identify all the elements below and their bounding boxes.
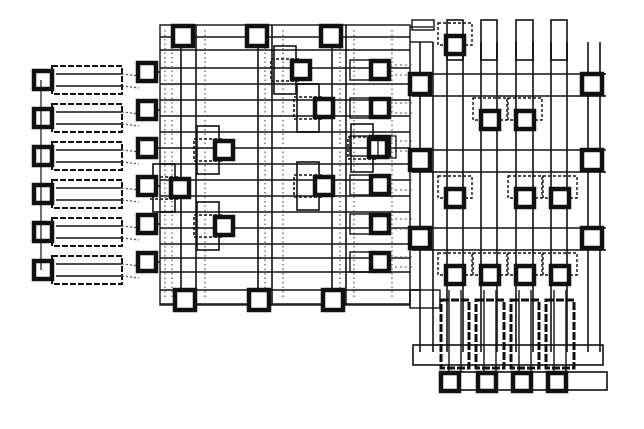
or-column-top (551, 20, 567, 60)
input-transistor (52, 180, 122, 208)
input-transistor (52, 66, 122, 94)
contact-pad (513, 373, 531, 391)
or-column-top (516, 20, 533, 60)
contact-pad (292, 61, 310, 79)
contact-pad (247, 26, 267, 46)
input-transistor (52, 104, 122, 132)
contact-pad (215, 141, 233, 159)
contact-pad (34, 147, 52, 165)
contact-pad (138, 139, 156, 157)
contact-pad (410, 74, 430, 94)
contact-pad (582, 150, 602, 170)
contact-pad (478, 373, 496, 391)
ic-layout-diagram (0, 0, 644, 429)
contact-pad (138, 215, 156, 233)
contact-pad (34, 223, 52, 241)
contact-pad (138, 101, 156, 119)
contact-pad (446, 36, 464, 54)
contact-pad (441, 373, 459, 391)
output-transistor (441, 300, 469, 368)
contact-pad (173, 26, 193, 46)
contact-pad (371, 61, 389, 79)
input-link (122, 200, 139, 202)
input-link (122, 86, 139, 88)
contact-pad (249, 290, 269, 310)
contact-pad (446, 266, 464, 284)
contact-pad (371, 215, 389, 233)
contact-pad (34, 109, 52, 127)
contact-pad (551, 266, 569, 284)
contact-pad (175, 290, 195, 310)
input-link (122, 276, 139, 278)
contact-pad (410, 150, 430, 170)
contact-pad (410, 228, 430, 248)
contact-pad (516, 111, 534, 129)
contact-pad (138, 253, 156, 271)
contact-pad (481, 111, 499, 129)
contact-pad (446, 189, 464, 207)
contact-pad (323, 290, 343, 310)
contact-pad (371, 253, 389, 271)
contact-pad (321, 26, 341, 46)
contact-pad (315, 99, 333, 117)
contact-pad (171, 179, 189, 197)
input-transistor (52, 142, 122, 170)
contact-pad (548, 373, 566, 391)
contact-pad (582, 228, 602, 248)
contact-pad (481, 266, 499, 284)
input-transistor (52, 218, 122, 246)
contact-pad (582, 74, 602, 94)
contact-pad (138, 177, 156, 195)
contact-pad (315, 177, 333, 195)
contact-pad (215, 217, 233, 235)
input-link (122, 162, 139, 164)
or-left-stub (410, 290, 440, 308)
or-top-tab (412, 20, 434, 30)
contact-pad (34, 71, 52, 89)
contact-pad (516, 189, 534, 207)
contact-pad (34, 185, 52, 203)
contact-pad (551, 189, 569, 207)
contact-pad (371, 176, 389, 194)
input-link (122, 238, 139, 240)
input-transistor (52, 256, 122, 284)
contact-pad (138, 63, 156, 81)
input-link (122, 124, 139, 126)
or-column-top (481, 20, 497, 60)
contact-pad (34, 261, 52, 279)
contact-pad (516, 266, 534, 284)
layout-svg (0, 0, 644, 429)
contact-pad (371, 99, 389, 117)
